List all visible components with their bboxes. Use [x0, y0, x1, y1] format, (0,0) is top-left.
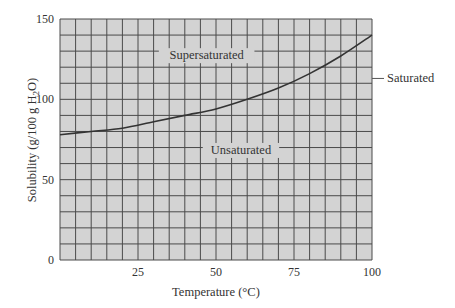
x-tick-label: 25: [132, 265, 144, 279]
x-tick-label: 75: [288, 265, 300, 279]
x-tick-label: 100: [363, 265, 381, 279]
unsaturated-label: Unsaturated: [211, 143, 272, 157]
saturated-label: Saturated: [387, 71, 435, 85]
y-axis-label: Solubility (g/100 g H2O): [25, 78, 41, 202]
supersaturated-label: Supersaturated: [169, 48, 244, 62]
x-axis-label: Temperature (°C): [172, 285, 260, 299]
y-tick-label: 150: [36, 12, 54, 26]
y-tick-label: 0: [48, 253, 54, 267]
x-tick-label: 50: [210, 265, 222, 279]
x-axis-ticks: 255075100: [132, 265, 381, 279]
solubility-chart: 050100150 255075100 SupersaturatedUnsatu…: [0, 0, 455, 308]
y-tick-label: 50: [42, 173, 54, 187]
